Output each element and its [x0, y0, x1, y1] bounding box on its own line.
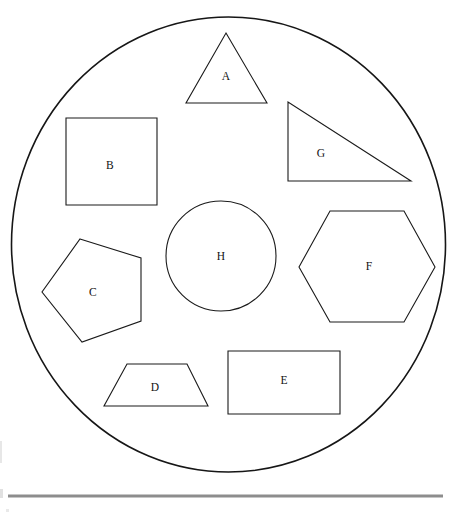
shape-group-e[interactable]: E — [228, 351, 340, 414]
shape-group-d[interactable]: D — [104, 364, 208, 406]
right-triangle-g[interactable] — [288, 102, 411, 181]
shape-label-g: G — [317, 147, 326, 159]
scan-speck-left-lower — [0, 489, 3, 498]
shape-label-a: A — [222, 70, 231, 82]
shape-label-c: C — [89, 286, 97, 298]
shape-label-f: F — [366, 260, 373, 272]
shape-group-h[interactable]: H — [166, 201, 276, 311]
shape-label-b: B — [106, 159, 114, 171]
shape-group-g[interactable]: G — [288, 102, 411, 181]
shape-group-b[interactable]: B — [66, 118, 157, 205]
scan-speck-left-upper — [0, 441, 2, 463]
shape-group-a[interactable]: A — [186, 33, 267, 103]
diagram-page: A B C D E F G — [0, 0, 467, 521]
scan-speck-left-dot — [6, 509, 9, 512]
shape-label-e: E — [280, 374, 287, 386]
shape-label-d: D — [151, 381, 160, 393]
shapes-diagram-canvas: A B C D E F G — [0, 0, 467, 521]
shape-group-f[interactable]: F — [299, 211, 435, 322]
shape-group-c[interactable]: C — [42, 239, 141, 342]
shape-label-h: H — [217, 250, 226, 262]
triangle-a[interactable] — [186, 33, 267, 103]
